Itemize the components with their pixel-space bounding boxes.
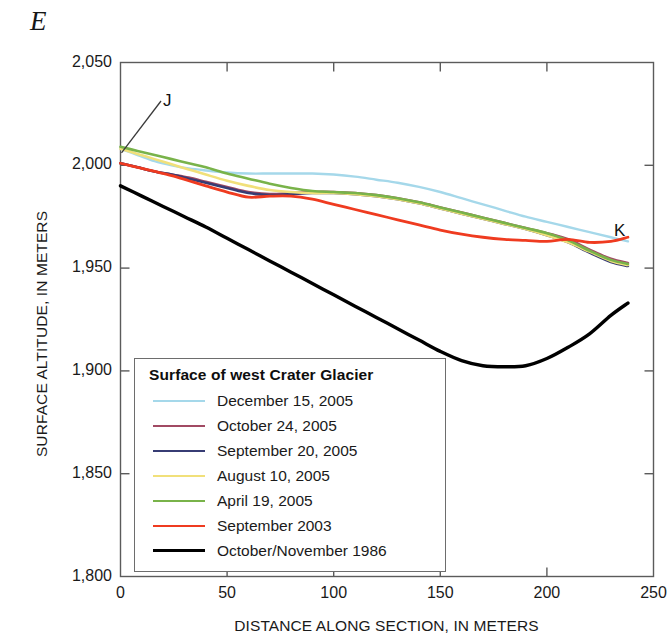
- legend-entry-list: December 15, 2005October 24, 2005Septemb…: [147, 388, 435, 563]
- legend-entry: August 10, 2005: [147, 463, 435, 488]
- chart-legend: Surface of west Crater Glacier December …: [134, 358, 446, 572]
- series-line-5: [121, 163, 628, 242]
- legend-color-swatch: [153, 475, 205, 477]
- legend-entry-label: April 19, 2005: [217, 492, 313, 510]
- legend-color-swatch: [153, 500, 205, 502]
- legend-color-swatch: [153, 450, 205, 452]
- legend-entry: September 2003: [147, 513, 435, 538]
- point-label-k: K: [614, 222, 625, 239]
- chart-figure: E SURFACE ALTITUDE, IN METERS DISTANCE A…: [0, 0, 668, 642]
- legend-entry-label: December 15, 2005: [217, 392, 353, 410]
- legend-entry-label: September 20, 2005: [217, 442, 357, 460]
- legend-entry-label: August 10, 2005: [217, 467, 330, 485]
- legend-color-swatch: [153, 525, 205, 527]
- legend-entry: October/November 1986: [147, 538, 435, 563]
- point-label-j: J: [163, 92, 172, 109]
- series-line-4: [121, 147, 628, 264]
- legend-entry: December 15, 2005: [147, 388, 435, 413]
- legend-color-swatch: [153, 425, 205, 427]
- legend-title: Surface of west Crater Glacier: [149, 366, 435, 384]
- legend-color-swatch: [153, 400, 205, 402]
- legend-color-swatch: [153, 549, 205, 552]
- legend-entry: April 19, 2005: [147, 488, 435, 513]
- legend-entry-label: September 2003: [217, 517, 332, 535]
- legend-entry-label: October/November 1986: [217, 542, 387, 560]
- legend-entry: September 20, 2005: [147, 438, 435, 463]
- legend-entry-label: October 24, 2005: [217, 417, 337, 435]
- legend-entry: October 24, 2005: [147, 413, 435, 438]
- leader-line-j: [122, 101, 162, 153]
